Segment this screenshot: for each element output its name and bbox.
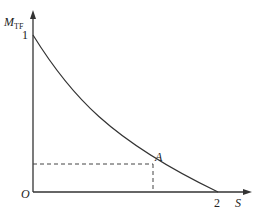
x-axis-arrow-icon — [243, 189, 252, 195]
point-a-label: A — [154, 150, 163, 164]
x-tick-label-2: 2 — [214, 196, 220, 210]
chart: M TF 1 O 2 S A — [0, 0, 263, 214]
y-tick-label-1: 1 — [22, 28, 28, 42]
y-axis-arrow-icon — [30, 10, 36, 19]
origin-label: O — [21, 187, 30, 201]
x-axis-label: S — [235, 196, 241, 210]
curve-line — [33, 35, 218, 192]
